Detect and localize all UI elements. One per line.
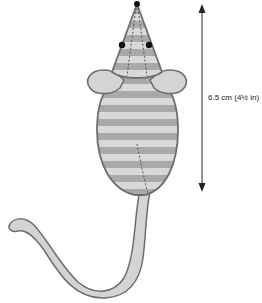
arrow-head-top-icon: [199, 4, 206, 13]
arrow-head-bottom-icon: [199, 183, 206, 192]
mouse-diagram: [0, 0, 262, 303]
mouse-tail: [9, 190, 150, 298]
measurement-label: 6.5 cm (4½ in): [208, 93, 259, 102]
nose-icon: [134, 1, 140, 7]
left-eye-icon: [119, 42, 125, 48]
right-eye-icon: [146, 42, 152, 48]
mouse-head: [112, 4, 162, 78]
